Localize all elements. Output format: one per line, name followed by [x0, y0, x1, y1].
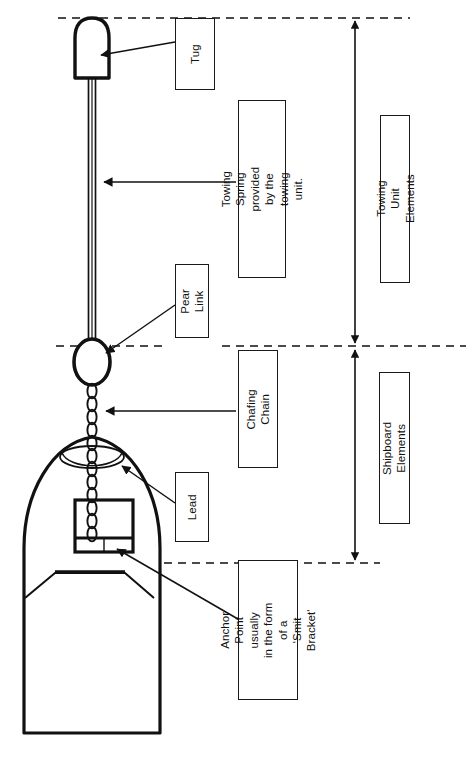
- callout-label-tug: Tug: [175, 18, 215, 90]
- callout-label-anchor-point-text: Anchor Point usually in the form of a 'S…: [218, 601, 319, 659]
- callout-label-towing-spring-text: Towing Spring provided by the towing uni…: [219, 166, 305, 212]
- section-label-shipboard-elements: Shipboard Elements: [379, 372, 410, 524]
- leader-tug: [101, 42, 175, 55]
- leader-lead: [122, 466, 175, 503]
- section-label-shipboard-elements-text: Shipboard Elements: [380, 421, 409, 474]
- section-label-towing-unit-elements-text: Towing Unit Elements: [373, 175, 416, 224]
- callout-label-lead-text: Lead: [185, 491, 199, 523]
- callout-label-lead: Lead: [175, 472, 209, 542]
- callout-label-towing-spring: Towing Spring provided by the towing uni…: [238, 100, 286, 278]
- callout-label-anchor-point: Anchor Point usually in the form of a 'S…: [238, 560, 298, 700]
- pear-link-ellipse: [74, 339, 110, 385]
- tug-hull-shape: [75, 18, 109, 78]
- towing-spring-rope: [89, 78, 96, 340]
- ship-deck-trapezoid: [25, 572, 154, 598]
- callout-label-pear-link: Pear Link: [175, 264, 209, 338]
- callout-label-chafing-chain: Chafing Chain: [238, 350, 278, 468]
- section-label-towing-unit-elements: Towing Unit Elements: [380, 115, 410, 283]
- chain-link-run: [87, 384, 96, 542]
- callout-label-tug-text: Tug: [188, 35, 202, 73]
- callout-label-chafing-chain-text: Chafing Chain: [244, 389, 273, 429]
- callout-label-pear-link-text: Pear Link: [178, 285, 207, 317]
- towing-arrangement-diagram: Tug Towing Spring provided by the towing…: [0, 0, 466, 758]
- smit-bracket-box: [75, 500, 133, 552]
